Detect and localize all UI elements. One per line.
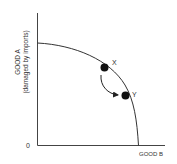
x-axis-label: GOOD B xyxy=(139,151,163,157)
origin-label: 0 xyxy=(26,142,30,149)
ppf-diagram: X Y 0 GOOD B GOOD A (damaged by imports) xyxy=(0,0,177,164)
y-axis-label-line2: (damaged by imports) xyxy=(22,30,30,93)
point-x-label: X xyxy=(112,59,117,66)
point-x xyxy=(101,64,109,72)
point-y xyxy=(122,92,130,100)
y-axis-label-line1: GOOD A xyxy=(14,49,21,75)
point-y-label: Y xyxy=(132,91,137,98)
movement-arrow xyxy=(101,75,118,95)
